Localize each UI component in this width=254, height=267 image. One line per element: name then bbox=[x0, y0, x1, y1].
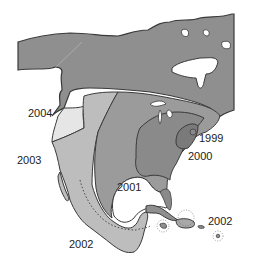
guadeloupe-island bbox=[216, 234, 220, 238]
label-2003: 2003 bbox=[17, 155, 41, 166]
arctic-water-3 bbox=[222, 41, 231, 49]
label-2004: 2004 bbox=[28, 108, 52, 119]
puerto-rico bbox=[198, 226, 204, 229]
label-2002-caribbean: 2002 bbox=[208, 216, 232, 227]
zone-2000 bbox=[136, 112, 204, 180]
cuba bbox=[146, 205, 178, 220]
jamaica bbox=[160, 223, 167, 228]
great-lake-michigan bbox=[159, 110, 162, 124]
label-2002-mexico: 2002 bbox=[69, 239, 93, 250]
label-2001: 2001 bbox=[117, 182, 141, 193]
arctic-water-1 bbox=[181, 29, 188, 36]
label-2000: 2000 bbox=[188, 151, 212, 162]
north-america-spread-map: 2004 2003 1999 2000 2001 2002 2002 bbox=[0, 0, 254, 267]
label-1999: 1999 bbox=[199, 133, 223, 144]
nyc-marker bbox=[190, 129, 196, 135]
arctic-water-2 bbox=[203, 30, 209, 36]
